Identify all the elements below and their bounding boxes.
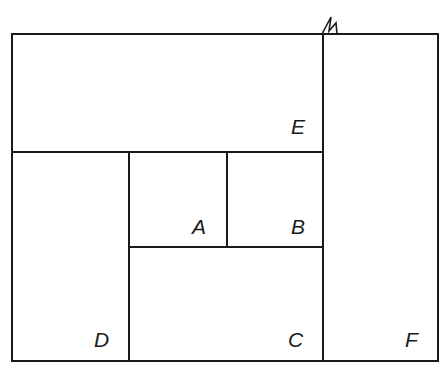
outer-top-border — [11, 33, 439, 35]
divider-ab-c — [128, 246, 324, 248]
outer-right-border — [437, 33, 439, 362]
outer-bottom-border — [11, 360, 439, 362]
divider-a-b — [226, 151, 228, 248]
region-label-f: F — [405, 329, 418, 350]
divider-d — [128, 151, 130, 362]
region-label-b: B — [291, 216, 305, 237]
outer-left-border — [11, 33, 13, 362]
region-label-a: A — [192, 216, 206, 237]
region-label-c: C — [288, 329, 303, 350]
region-label-d: D — [94, 329, 109, 350]
divider-e-f — [322, 33, 324, 362]
region-label-e: E — [291, 116, 305, 137]
pen-mark-icon — [318, 14, 348, 38]
divider-e-bottom — [11, 151, 324, 153]
